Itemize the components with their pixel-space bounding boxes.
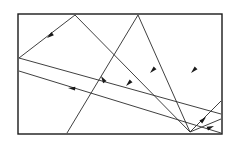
ray-diagram-figure [0,0,232,144]
figure-frame-rect [18,14,222,134]
